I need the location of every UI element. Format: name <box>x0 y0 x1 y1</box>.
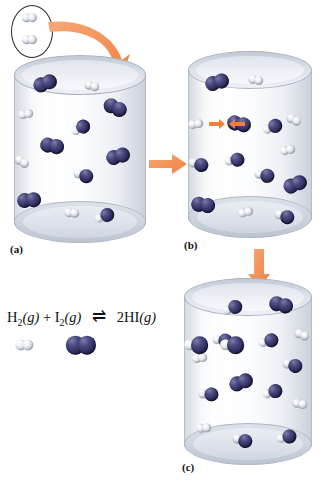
equation-plus: + <box>43 309 51 325</box>
panel-a-label: (a) <box>10 243 23 255</box>
molecule-i2 <box>16 191 43 208</box>
iodine-atom <box>191 336 209 354</box>
legend-h2 <box>15 339 34 350</box>
iodine-atom <box>78 336 97 355</box>
reaction-equation: H2(g) + I2(g) ⇌ 2HI(g) <box>7 306 156 328</box>
legend-hi-2 <box>220 336 244 354</box>
molecule-h2 <box>22 13 38 22</box>
hydrogen-atom <box>297 399 308 410</box>
collision-arrows-icon <box>209 118 245 130</box>
hydrogen-atom <box>28 35 37 44</box>
hydrogen-atom <box>69 208 79 218</box>
iodine-atom <box>199 197 216 214</box>
hydrogen-atom <box>201 423 211 433</box>
iodine-atom <box>227 336 245 354</box>
legend-i2 <box>66 336 98 355</box>
molecule-h2 <box>22 35 38 44</box>
hydrogen-atom <box>22 339 33 350</box>
iodine-atom <box>26 192 42 208</box>
iodine-atom <box>281 428 297 444</box>
equation-h2: H2(g) <box>7 309 39 325</box>
right-arrow-icon <box>148 152 188 178</box>
equilibrium-arrow-icon: ⇌ <box>85 307 113 326</box>
iodine-atom <box>203 387 218 402</box>
panel-c-label: (c) <box>182 461 194 473</box>
hydrogen-atom <box>253 75 263 85</box>
hydrogen-atom <box>89 81 100 92</box>
cylinder-a-floor <box>23 206 137 238</box>
legend-hi-1 <box>184 336 208 354</box>
iodine-atom <box>277 297 295 315</box>
figure-canvas: (a) (b) (c) H2(g) + I2(g) ⇌ 2HI( <box>0 0 323 482</box>
equation-product: 2HI(g) <box>117 309 156 325</box>
iodine-atom <box>229 152 244 167</box>
equation-i2: I2(g) <box>55 309 82 325</box>
iodine-atom <box>48 138 65 155</box>
hydrogen-atom <box>28 13 37 22</box>
molecule-h2 <box>64 208 80 218</box>
molecule-hi <box>198 386 218 402</box>
panel-b-label: (b) <box>184 239 197 251</box>
molecule-h2 <box>196 423 212 434</box>
molecule-hi <box>224 152 244 168</box>
